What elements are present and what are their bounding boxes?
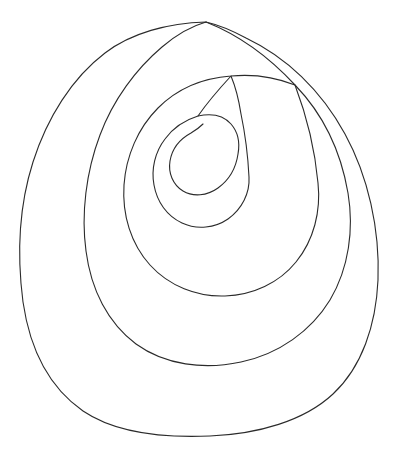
spiral-illustration <box>0 0 394 460</box>
canvas-background <box>0 0 394 460</box>
drawing-canvas <box>0 0 394 460</box>
